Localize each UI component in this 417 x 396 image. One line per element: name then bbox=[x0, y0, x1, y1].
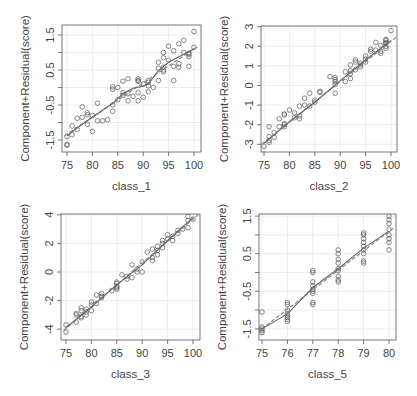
x-tick-label: 100 bbox=[185, 159, 203, 171]
panel-class_3: 7580859095100class_3-4-2024Component+Res… bbox=[18, 203, 202, 380]
x-tick-label: 95 bbox=[359, 159, 371, 171]
y-tick-label: 2 bbox=[43, 240, 55, 246]
y-tick-label: -0.5 bbox=[44, 96, 56, 115]
x-tick-label: 79 bbox=[357, 347, 369, 359]
x-tick-label: 78 bbox=[332, 347, 344, 359]
panel-class_2: 7580859095100class_2-3-2-10123Component+… bbox=[218, 15, 400, 192]
y-tick-label: 1.5 bbox=[44, 27, 56, 42]
y-tick-label: -0.5 bbox=[241, 282, 253, 301]
x-tick-label: 75 bbox=[256, 347, 268, 359]
y-axis: -1.5-0.50.51.5Component+Residual(score) bbox=[216, 203, 259, 350]
data-points bbox=[260, 214, 392, 335]
y-axis-label: Component+Residual(score) bbox=[19, 15, 31, 162]
y-axis: -1.5-0.50.51.5Component+Residual(score) bbox=[19, 15, 62, 162]
y-tick-label: -2 bbox=[43, 296, 55, 306]
y-tick-label: 0.5 bbox=[241, 246, 253, 261]
x-tick-label: 76 bbox=[281, 347, 293, 359]
x-tick-label: 95 bbox=[161, 347, 173, 359]
x-axis: 7580859095100class_1 bbox=[61, 152, 203, 192]
y-axis-label: Component+Residual(score) bbox=[18, 203, 30, 350]
y-tick-label: 1.5 bbox=[241, 208, 253, 223]
x-tick-label: 75 bbox=[258, 159, 270, 171]
y-tick-label: -1.5 bbox=[44, 131, 56, 150]
x-axis-label: class_5 bbox=[308, 368, 347, 380]
x-axis: 7580859095100class_3 bbox=[60, 340, 202, 380]
x-tick-label: 80 bbox=[85, 347, 97, 359]
y-tick-label: -2 bbox=[243, 120, 255, 130]
y-axis: -3-2-10123Component+Residual(score) bbox=[218, 15, 261, 162]
y-tick-label: 0 bbox=[243, 82, 255, 88]
x-axis-label: class_1 bbox=[112, 180, 151, 192]
x-tick-label: 85 bbox=[111, 347, 123, 359]
x-tick-label: 77 bbox=[307, 347, 319, 359]
y-tick-label: 0 bbox=[43, 269, 55, 275]
y-tick-label: -1.5 bbox=[241, 319, 253, 338]
x-axis-label: class_2 bbox=[310, 180, 349, 192]
x-tick-label: 75 bbox=[60, 347, 72, 359]
y-tick-label: -3 bbox=[243, 139, 255, 149]
panel-class_5: 757677787980class_5-1.5-0.50.51.5Compone… bbox=[216, 203, 396, 380]
panel-class_1: 7580859095100class_1-1.5-0.50.51.5Compon… bbox=[19, 15, 203, 192]
smooth-line bbox=[264, 40, 391, 143]
x-tick-label: 90 bbox=[334, 159, 346, 171]
y-tick-label: 4 bbox=[43, 212, 55, 218]
x-tick-label: 95 bbox=[162, 159, 174, 171]
x-tick-label: 100 bbox=[382, 159, 400, 171]
x-tick-label: 80 bbox=[283, 159, 295, 171]
x-tick-label: 80 bbox=[383, 347, 395, 359]
x-tick-label: 90 bbox=[137, 159, 149, 171]
y-tick-label: -1 bbox=[243, 100, 255, 110]
y-axis: -4-2024Component+Residual(score) bbox=[18, 203, 61, 350]
y-tick-label: 2 bbox=[243, 43, 255, 49]
x-tick-label: 85 bbox=[309, 159, 321, 171]
y-axis-label: Component+Residual(score) bbox=[216, 203, 228, 350]
y-tick-label: 3 bbox=[243, 24, 255, 30]
x-axis: 7580859095100class_2 bbox=[258, 152, 400, 192]
x-tick-label: 85 bbox=[112, 159, 124, 171]
regression-line bbox=[257, 227, 394, 332]
plot-frame bbox=[61, 214, 200, 340]
figure-canvas: 7580859095100class_1-1.5-0.50.51.5Compon… bbox=[0, 0, 417, 396]
x-axis: 757677787980class_5 bbox=[256, 340, 395, 380]
y-axis-label: Component+Residual(score) bbox=[218, 15, 230, 162]
x-tick-label: 100 bbox=[184, 347, 202, 359]
grid bbox=[61, 214, 200, 340]
y-tick-label: 1 bbox=[243, 63, 255, 69]
x-axis-label: class_3 bbox=[111, 368, 150, 380]
y-tick-label: 0.5 bbox=[44, 62, 56, 77]
y-tick-label: -4 bbox=[43, 324, 55, 334]
x-tick-label: 75 bbox=[61, 159, 73, 171]
data-points bbox=[65, 29, 197, 147]
x-tick-label: 90 bbox=[136, 347, 148, 359]
x-tick-label: 80 bbox=[86, 159, 98, 171]
